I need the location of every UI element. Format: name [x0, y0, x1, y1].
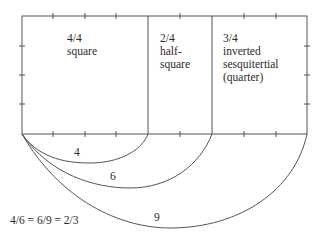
inverted-name-1: inverted: [223, 45, 279, 58]
square-name: square: [67, 45, 97, 58]
inverted-name-2: sesquitertial: [223, 58, 279, 71]
half-square-name-2: square: [160, 58, 190, 71]
square-ratio: 4/4: [67, 32, 97, 45]
inverted-name-3: (quarter): [223, 71, 279, 84]
ratio-equation: 4/6 = 6/9 = 2/3: [10, 214, 79, 227]
arc-6-label: 6: [110, 170, 116, 183]
region-inverted-label: 3/4 inverted sesquitertial (quarter): [223, 32, 279, 84]
arc-4: [22, 134, 148, 163]
arc-6: [22, 134, 212, 188]
region-half-square-label: 2/4 half- square: [160, 32, 190, 71]
half-square-ratio: 2/4: [160, 32, 190, 45]
arc-4-label: 4: [74, 146, 80, 159]
inverted-ratio: 3/4: [223, 32, 279, 45]
arc-9-label: 9: [154, 211, 160, 224]
half-square-name-1: half-: [160, 45, 190, 58]
region-square-label: 4/4 square: [67, 32, 97, 58]
